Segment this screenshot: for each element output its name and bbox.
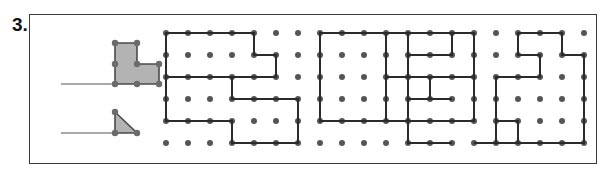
figure-panel [29,14,597,164]
problem-number-label: 3. [12,14,28,36]
worksheet-root: 3. [0,0,611,179]
